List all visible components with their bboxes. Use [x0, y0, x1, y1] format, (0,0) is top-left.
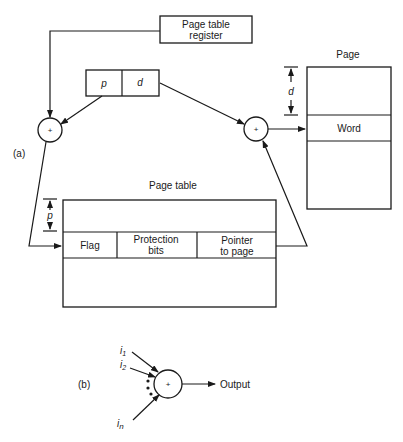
- page-table-title: Page table: [149, 180, 197, 191]
- ellipsis-dots: [146, 379, 152, 395]
- page-table-offset-marker: p: [43, 199, 57, 231]
- adder-generic: +: [154, 370, 182, 398]
- input-n-label: in: [117, 418, 124, 431]
- paging-diagram: (a) Page table register p d + + Page Wor…: [0, 0, 403, 442]
- part-a-label: (a): [13, 148, 25, 159]
- output-label: Output: [220, 379, 250, 390]
- page-offset-marker: d: [284, 67, 298, 115]
- pointer-label-line2: to page: [220, 246, 254, 257]
- page-table-register: Page table register: [160, 16, 252, 43]
- input-1-arrow: [132, 352, 158, 372]
- input-2-arrow: [130, 368, 155, 377]
- plus-icon: +: [166, 380, 171, 389]
- protection-label-line2: bits: [148, 245, 164, 256]
- page-title: Page: [336, 49, 360, 60]
- input-1-label: i1: [120, 345, 126, 357]
- address-d: d: [137, 77, 143, 88]
- protection-label-line1: Protection: [133, 234, 178, 245]
- input-n-arrow: [133, 395, 159, 420]
- word-label: Word: [337, 123, 361, 134]
- virtual-address: p d: [86, 70, 159, 96]
- page-box: Word: [307, 67, 391, 209]
- register-label-line1: Page table: [182, 19, 230, 30]
- pointer-label-line1: Pointer: [221, 235, 253, 246]
- offset-d-label: d: [288, 86, 294, 97]
- address-p: p: [100, 78, 107, 89]
- adder-left: +: [38, 118, 62, 142]
- input-2-label: i2: [120, 359, 126, 371]
- p-to-adder-arrow: [61, 96, 102, 124]
- part-b-label: (b): [78, 379, 90, 390]
- plus-icon: +: [254, 125, 259, 134]
- plus-icon: +: [48, 126, 53, 135]
- adder-right: +: [244, 117, 268, 141]
- flag-label: Flag: [80, 240, 99, 251]
- page-table: Flag Protection bits Pointer to page: [63, 200, 276, 307]
- d-to-adder-arrow: [160, 83, 244, 124]
- register-label-line2: register: [189, 30, 223, 41]
- offset-p-label: p: [46, 210, 53, 221]
